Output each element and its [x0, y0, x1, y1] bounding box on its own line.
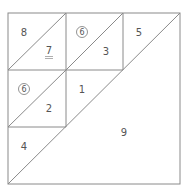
region-label: 9 [121, 127, 127, 138]
region-label: 8 [21, 27, 27, 38]
region-6-circled-top: 6 [77, 27, 88, 38]
region-label: 1 [79, 84, 85, 95]
region-1: 1 [79, 84, 85, 95]
region-8: 8 [21, 27, 27, 38]
region-label: 7 [46, 45, 52, 56]
region-label: 6 [21, 85, 26, 94]
region-label: 3 [103, 46, 109, 57]
diagonal-cell-1-1 [8, 13, 66, 70]
region-7: 7 [45, 45, 53, 59]
region-5: 5 [136, 27, 142, 38]
region-4: 4 [21, 141, 27, 152]
diagonal-cell-2-1 [8, 70, 66, 127]
puzzle-diagram: 8 7 6 3 5 6 2 1 4 9 [0, 0, 185, 190]
region-9: 9 [121, 127, 127, 138]
main-diagonal [8, 13, 180, 184]
region-3: 3 [103, 46, 109, 57]
region-2: 2 [46, 103, 52, 114]
diagonal-cell-1-2 [66, 13, 123, 70]
region-label: 4 [21, 141, 27, 152]
region-6-circled-left: 6 [19, 84, 30, 95]
region-label: 5 [136, 27, 142, 38]
region-label: 2 [46, 103, 52, 114]
region-label: 6 [79, 28, 84, 37]
